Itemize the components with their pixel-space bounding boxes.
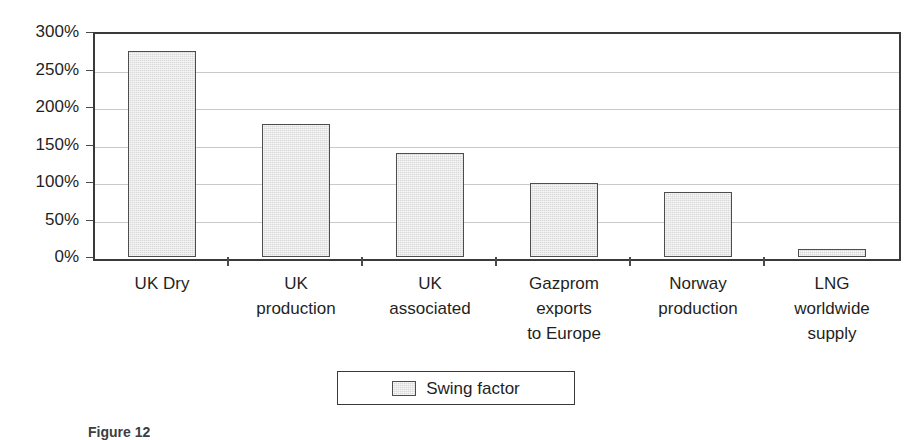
bar xyxy=(664,192,732,257)
legend-swatch-swing-factor xyxy=(392,381,416,396)
bar xyxy=(128,51,196,257)
y-axis-tick-mark xyxy=(86,32,93,33)
y-axis-tick-mark xyxy=(86,257,93,258)
x-axis-category-label: UKassociated xyxy=(363,271,497,321)
bar-slot xyxy=(497,34,631,257)
x-axis-tick-mark xyxy=(361,257,363,266)
bar-slot xyxy=(95,34,229,257)
x-axis-category-label: UKproduction xyxy=(229,271,363,321)
chart-legend: Swing factor xyxy=(337,371,575,405)
x-axis-category-labels: UK DryUKproductionUKassociatedGazpromexp… xyxy=(95,271,897,351)
category-label-line: associated xyxy=(363,296,497,321)
bar-slot xyxy=(631,34,765,257)
category-label-line: production xyxy=(229,296,363,321)
bar-series-swing-factor xyxy=(95,34,897,257)
bar xyxy=(530,183,598,257)
y-axis-tick-mark xyxy=(86,145,93,146)
y-axis-tick-mark xyxy=(86,182,93,183)
y-axis-tick-label: 300% xyxy=(0,23,79,40)
figure-caption: Figure 12 xyxy=(88,424,150,440)
y-axis-tick-mark xyxy=(86,220,93,221)
y-axis-tick-mark xyxy=(86,107,93,108)
bar-slot xyxy=(765,34,899,257)
x-axis-tick-mark xyxy=(227,257,229,266)
category-label-line: worldwide xyxy=(765,296,899,321)
x-axis-category-label: UK Dry xyxy=(95,271,229,296)
x-axis-category-label: LNGworldwidesupply xyxy=(765,271,899,346)
category-label-line: UK xyxy=(229,271,363,296)
bar-slot xyxy=(229,34,363,257)
category-label-line: to Europe xyxy=(497,321,631,346)
x-axis-category-label: Norwayproduction xyxy=(631,271,765,321)
bar xyxy=(262,124,330,257)
y-axis-tick-label: 150% xyxy=(0,136,79,153)
y-axis-tick-mark xyxy=(86,70,93,71)
x-axis-tick-mark xyxy=(763,257,765,266)
y-axis-tick-label: 50% xyxy=(0,211,79,228)
category-label-line: supply xyxy=(765,321,899,346)
category-label-line: UK Dry xyxy=(95,271,229,296)
category-label-line: LNG xyxy=(765,271,899,296)
x-axis-tick-mark xyxy=(495,257,497,266)
bar xyxy=(798,249,866,257)
x-axis-category-label: Gazpromexportsto Europe xyxy=(497,271,631,346)
y-axis-tick-label: 0% xyxy=(0,248,79,265)
category-label-line: UK xyxy=(363,271,497,296)
y-axis-tick-label: 100% xyxy=(0,173,79,190)
y-axis-tick-label: 250% xyxy=(0,61,79,78)
category-label-line: Gazprom xyxy=(497,271,631,296)
category-label-line: production xyxy=(631,296,765,321)
category-label-line: exports xyxy=(497,296,631,321)
y-axis-tick-label: 200% xyxy=(0,98,79,115)
bar xyxy=(396,153,464,257)
x-axis-tick-mark xyxy=(629,257,631,266)
bar-slot xyxy=(363,34,497,257)
legend-label-swing-factor: Swing factor xyxy=(426,380,520,397)
category-label-line: Norway xyxy=(631,271,765,296)
